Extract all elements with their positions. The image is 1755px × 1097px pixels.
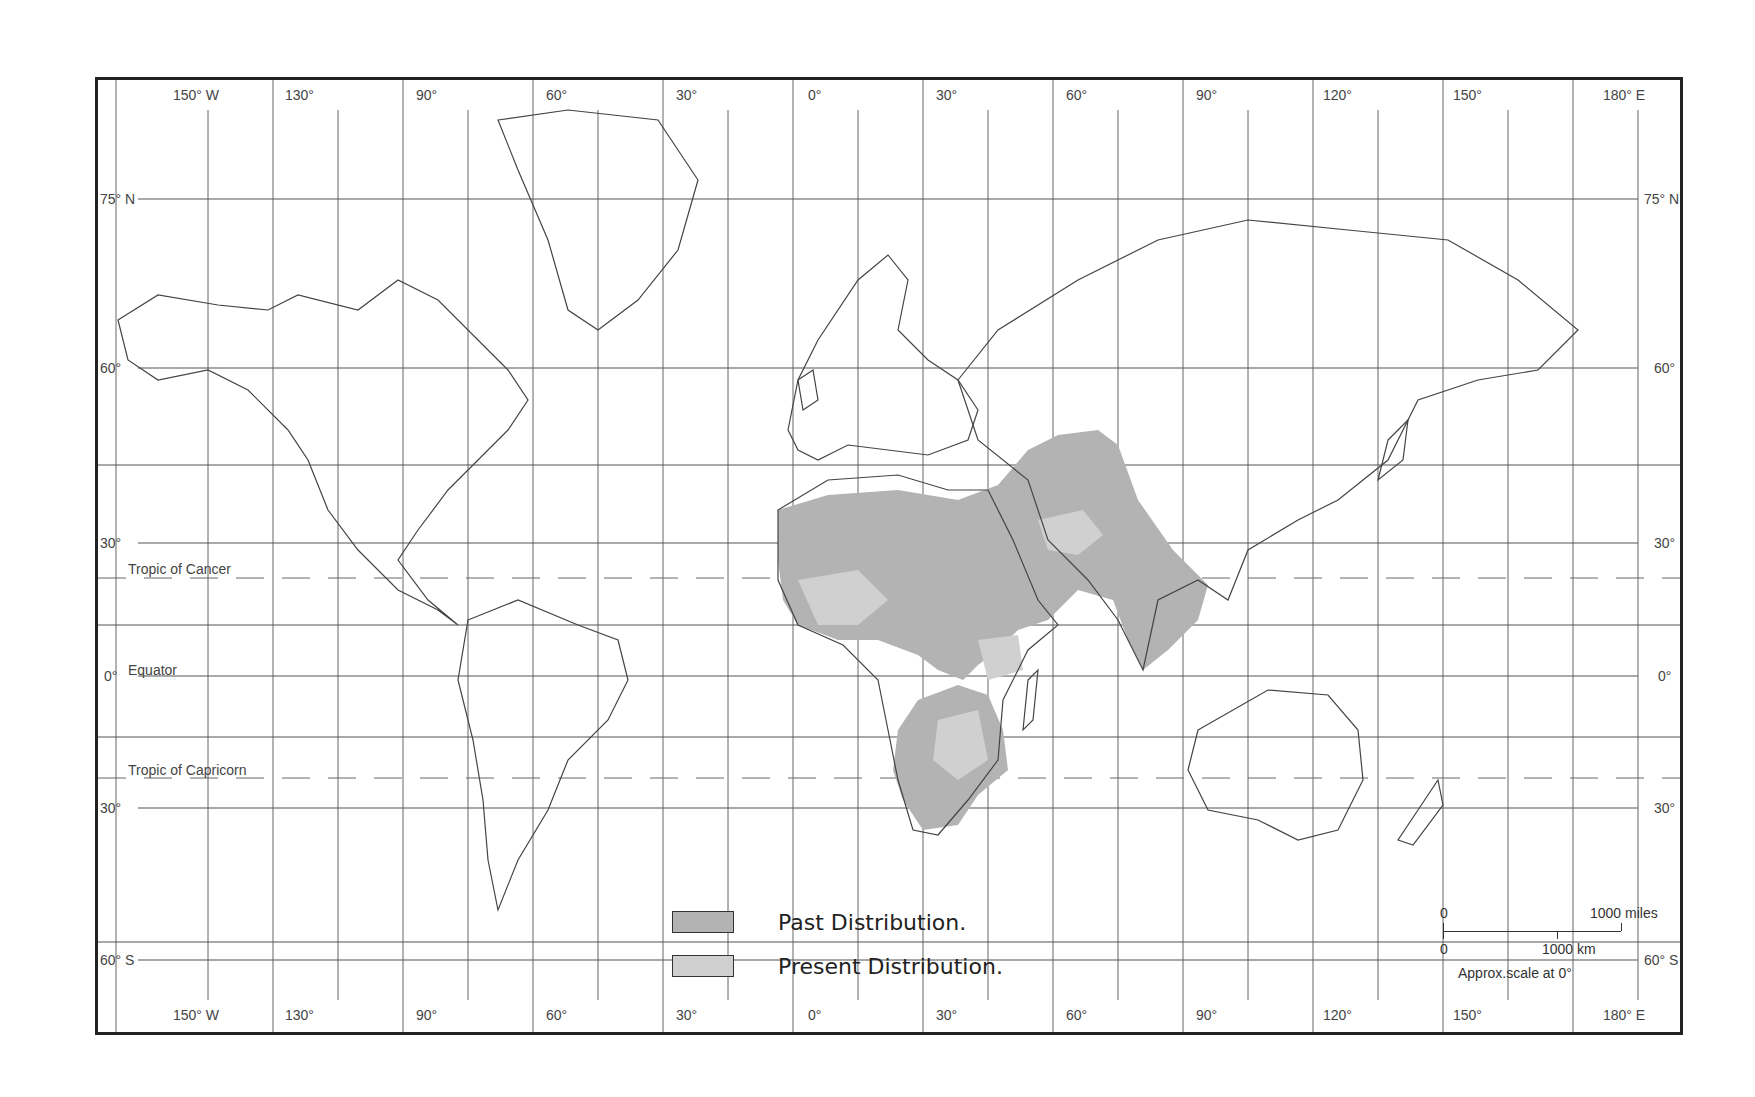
right-lat-label: 60° <box>1654 361 1675 375</box>
map-frame: 150° W 130° 90° 60° 30° 0° 30° 60° 90° 1… <box>95 77 1683 1035</box>
south-america-outline <box>458 600 628 910</box>
top-lon-label: 180° E <box>1603 88 1645 102</box>
british-isles-outline <box>798 370 818 410</box>
right-lat-label: 75° N <box>1644 192 1679 206</box>
top-lon-label: 130° <box>285 88 314 102</box>
scale-miles-zero: 0 <box>1440 905 1448 921</box>
left-lat-label: 75° N <box>100 192 135 206</box>
top-lon-label: 30° <box>936 88 957 102</box>
bottom-lon-label: 150° W <box>173 1008 219 1022</box>
left-lat-label: 30° <box>100 536 121 550</box>
bottom-lon-label: 150° <box>1453 1008 1482 1022</box>
tropic-of-capricorn-label: Tropic of Capricorn <box>128 763 247 777</box>
top-lon-label: 60° <box>546 88 567 102</box>
right-lat-label: 60° S <box>1644 953 1678 967</box>
right-lat-label: 0° <box>1658 669 1671 683</box>
bottom-lon-label: 180° E <box>1603 1008 1645 1022</box>
europe-outline <box>788 255 978 460</box>
scale-km-zero: 0 <box>1440 941 1448 957</box>
new-zealand-outline <box>1398 780 1443 845</box>
equator-label: Equator <box>128 663 177 677</box>
past-distribution-area <box>778 430 1208 830</box>
top-lon-label: 120° <box>1323 88 1352 102</box>
scale-tick-km <box>1557 931 1558 939</box>
right-lat-label: 30° <box>1654 536 1675 550</box>
world-map <box>98 80 1680 1032</box>
scale-tick-miles <box>1621 923 1622 931</box>
bottom-lon-label: 30° <box>936 1008 957 1022</box>
scale-km-label: 1000 km <box>1542 941 1596 957</box>
top-lon-label: 90° <box>416 88 437 102</box>
left-lat-label: 60° <box>100 361 121 375</box>
tropic-of-cancer-label: Tropic of Cancer <box>128 562 231 576</box>
top-lon-label: 150° W <box>173 88 219 102</box>
bottom-lon-label: 60° <box>1066 1008 1087 1022</box>
right-lat-label: 30° <box>1654 801 1675 815</box>
top-lon-label: 150° <box>1453 88 1482 102</box>
legend-label: Past Distribution. <box>778 910 966 935</box>
left-lat-label: 60° S <box>100 953 134 967</box>
scale-line <box>1443 931 1621 932</box>
present-distribution-swatch <box>672 955 734 977</box>
bottom-lon-label: 30° <box>676 1008 697 1022</box>
bottom-lon-label: 120° <box>1323 1008 1352 1022</box>
legend-item-present: Present Distribution. <box>672 944 1003 988</box>
bottom-lon-label: 60° <box>546 1008 567 1022</box>
legend-item-past: Past Distribution. <box>672 900 1003 944</box>
bottom-lon-label: 90° <box>416 1008 437 1022</box>
scale-note: Approx.scale at 0° <box>1458 965 1572 981</box>
madagascar-outline <box>1023 670 1038 730</box>
scale-bar: 0 1000 miles 0 1000 km Approx.scale at 0… <box>1440 905 1640 1005</box>
top-lon-label: 60° <box>1066 88 1087 102</box>
top-lon-label: 90° <box>1196 88 1217 102</box>
legend: Past Distribution. Present Distribution. <box>672 900 1003 988</box>
top-lon-label: 30° <box>676 88 697 102</box>
bottom-lon-label: 90° <box>1196 1008 1217 1022</box>
past-distribution-swatch <box>672 911 734 933</box>
legend-label: Present Distribution. <box>778 954 1003 979</box>
scale-miles-label: 1000 miles <box>1590 905 1658 921</box>
left-lat-label: 0° <box>104 669 117 683</box>
left-lat-label: 30° <box>100 801 121 815</box>
australia-outline <box>1188 690 1363 840</box>
bottom-lon-label: 0° <box>808 1008 821 1022</box>
top-lon-label: 0° <box>808 88 821 102</box>
scale-tick-start <box>1443 923 1444 939</box>
bottom-lon-label: 130° <box>285 1008 314 1022</box>
